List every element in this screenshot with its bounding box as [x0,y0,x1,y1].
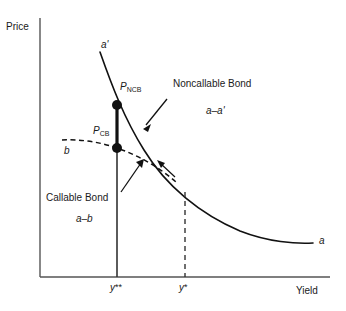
annotation-callable-bond-title: Callable Bond [46,193,108,203]
curve-label-a-prime: a' [101,40,108,50]
point-label-p-ncb: PNCB [120,82,141,92]
point-p-ncb [112,100,122,110]
annotation-callable-bond-code: a–b [76,214,93,224]
point-label-p-cb: PCB [93,126,109,136]
y-star-superscript: * [184,282,188,292]
p-cb-subscript: CB [100,130,110,137]
point-p-cb [112,143,122,153]
curve-label-a: a [319,236,325,246]
price-yield-chart: Price Yield a' a b PNCB PCB Noncallable … [0,0,346,311]
y-axis-title: Price [6,22,29,32]
annotation-noncallable-bond-title: Noncallable Bond [173,79,251,89]
chart-canvas [0,0,346,311]
x-tick-label-y-double-star: y** [110,283,122,293]
p-cb-base: P [93,125,100,136]
y-double-star-superscript: ** [115,282,122,292]
annotation-noncallable-bond-code: a–a' [206,106,225,116]
p-ncb-subscript: NCB [127,86,142,93]
x-tick-label-y-star: y* [179,283,188,293]
noncallable-bond-arrow [143,99,167,132]
curve-label-b: b [64,146,70,156]
p-ncb-base: P [120,81,127,92]
callable-bond-arrow [121,159,144,192]
x-axis-title: Yield [296,286,318,296]
